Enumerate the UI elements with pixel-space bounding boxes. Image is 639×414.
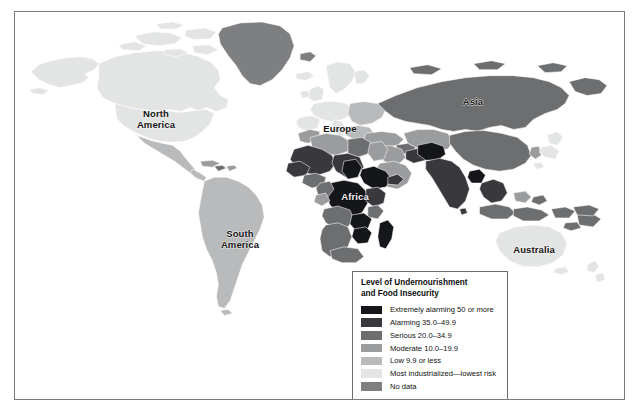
map-frame: North America South America Europe Afric… — [14, 11, 625, 400]
legend-item-low[interactable]: Low 9.9 or less — [361, 355, 500, 367]
legend-label-no-data: No data — [390, 382, 417, 391]
world-map[interactable] — [15, 12, 624, 399]
legend-label-alarming: Alarming 35.0–49.9 — [390, 318, 456, 327]
legend-swatch-no-data — [361, 382, 382, 391]
legend-swatch-most-industrialized — [361, 369, 382, 378]
region-southeast-asia[interactable] — [479, 179, 601, 231]
legend-label-most-industrialized: Most industrialized—lowest risk — [390, 369, 496, 378]
legend-swatch-extremely-alarming — [361, 306, 382, 315]
region-iceland[interactable] — [296, 72, 314, 81]
legend-item-most-industrialized[interactable]: Most industrialized—lowest risk — [361, 368, 500, 380]
legend-label-low: Low 9.9 or less — [390, 356, 441, 365]
legend-swatch-alarming — [361, 318, 382, 327]
region-africa[interactable] — [286, 129, 404, 262]
figure-root: North America South America Europe Afric… — [0, 0, 639, 414]
legend-label-extremely-alarming: Extremely alarming 50 or more — [390, 305, 494, 314]
region-russia[interactable] — [378, 61, 607, 132]
legend-swatch-moderate — [361, 344, 382, 353]
legend-item-extremely-alarming[interactable]: Extremely alarming 50 or more — [361, 304, 500, 316]
region-south-america[interactable] — [198, 177, 264, 315]
region-china[interactable] — [450, 130, 564, 171]
legend-label-serious: Serious 20.0–34.9 — [390, 331, 452, 340]
map-legend: Level of Undernourishment and Food Insec… — [352, 271, 508, 400]
region-north-america[interactable] — [29, 22, 237, 181]
legend-swatch-serious — [361, 331, 382, 340]
legend-item-alarming[interactable]: Alarming 35.0–49.9 — [361, 317, 500, 329]
legend-swatch-low — [361, 357, 382, 366]
legend-title: Level of Undernourishment and Food Insec… — [361, 278, 500, 299]
legend-item-serious[interactable]: Serious 20.0–34.9 — [361, 330, 500, 342]
legend-item-no-data[interactable]: No data — [361, 381, 500, 393]
legend-item-moderate[interactable]: Moderate 10.0–19.9 — [361, 342, 500, 354]
legend-label-moderate: Moderate 10.0–19.9 — [390, 344, 458, 353]
